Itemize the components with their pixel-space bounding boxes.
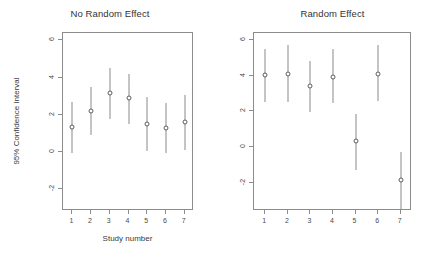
y-axis-tick-label: -2 [48,181,55,195]
point-estimate-marker [163,125,168,130]
x-axis-tick [146,210,147,214]
point-estimate-marker [263,72,268,77]
y-axis-tick [58,77,62,78]
x-axis-title: Study number [62,234,193,243]
x-axis-tick [400,210,401,214]
plot-area-right [254,33,410,209]
x-axis-tick-label: 7 [178,217,190,224]
plot-area-left [63,33,192,209]
point-estimate-marker [107,91,112,96]
point-estimate-marker [126,95,131,100]
x-axis-tick-label: 6 [371,217,383,224]
forest-plot-figure: No Random Effect 6420-21234567 95% Confi… [0,0,441,259]
x-axis-tick-label: 2 [281,217,293,224]
x-axis-tick-label: 7 [394,217,406,224]
y-axis-tick [249,75,253,76]
x-axis-tick [109,210,110,214]
x-axis-tick-label: 3 [103,217,115,224]
x-axis-tick-label: 1 [65,217,77,224]
point-estimate-marker [70,124,75,129]
x-axis-tick [377,210,378,214]
x-axis-tick-label: 2 [84,217,96,224]
y-axis-tick [249,146,253,147]
y-axis-tick-label: 6 [48,32,55,46]
y-axis-tick [58,188,62,189]
x-axis-tick-label: 4 [122,217,134,224]
y-axis-title: 95% Confidence Interval [12,46,21,196]
y-axis-tick [58,151,62,152]
point-estimate-marker [308,83,313,88]
point-estimate-marker [89,108,94,113]
y-axis-tick-label: 6 [239,32,246,46]
y-axis-tick-label: 0 [48,144,55,158]
x-axis-tick-label: 5 [140,217,152,224]
x-axis-tick [90,210,91,214]
point-estimate-marker [398,177,403,182]
y-axis-tick [249,110,253,111]
y-axis-tick [249,39,253,40]
y-axis-tick-label: 4 [48,70,55,84]
x-axis-tick [264,210,265,214]
x-axis-tick [355,210,356,214]
x-axis-tick-label: 5 [349,217,361,224]
panel-left-title: No Random Effect [0,8,220,19]
x-axis-tick-label: 6 [159,217,171,224]
x-axis-tick [165,210,166,214]
panel-no-random-effect: No Random Effect 6420-21234567 95% Confi… [0,0,220,259]
plot-frame-right [253,32,411,210]
y-axis-tick-label: 2 [48,107,55,121]
point-estimate-marker [285,71,290,76]
x-axis-tick [71,210,72,214]
y-axis-tick-label: 4 [239,68,246,82]
point-estimate-marker [376,71,381,76]
x-axis-tick [332,210,333,214]
point-estimate-marker [182,120,187,125]
y-axis-tick-label: 2 [239,103,246,117]
y-axis-tick [58,39,62,40]
point-estimate-marker [331,74,336,79]
x-axis-tick-label: 3 [303,217,315,224]
x-axis-tick-label: 4 [326,217,338,224]
x-axis-tick [309,210,310,214]
x-axis-tick-label: 1 [258,217,270,224]
x-axis-tick [287,210,288,214]
y-axis-tick [58,114,62,115]
plot-frame-left [62,32,193,210]
y-axis-tick-label: 0 [239,139,246,153]
point-estimate-marker [353,138,358,143]
point-estimate-marker [145,121,150,126]
x-axis-tick [184,210,185,214]
panel-right-title: Random Effect [220,8,441,19]
y-axis-tick [249,182,253,183]
y-axis-tick-label: -2 [239,175,246,189]
x-axis-tick [128,210,129,214]
